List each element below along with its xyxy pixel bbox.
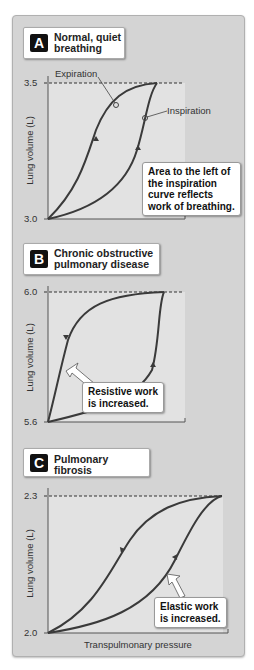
panel-c-title: C Pulmonary fibrosis xyxy=(23,448,150,477)
panel-b-ybottom: 5.6 xyxy=(24,416,37,427)
inspiration-label: Inspiration xyxy=(167,105,211,116)
panel-b-note: Resistive workis increased. xyxy=(82,382,164,413)
panel-c-ylabel: Lung volume (L) xyxy=(24,529,35,598)
panel-b-badge: B xyxy=(30,250,48,268)
panel-a-badge: A xyxy=(30,34,48,52)
panel-a-ybottom: 3.0 xyxy=(24,213,37,224)
panel-c-badge: C xyxy=(30,454,48,472)
expiration-label: Expiration xyxy=(55,68,97,79)
x-axis-label: Transpulmonary pressure xyxy=(84,639,192,650)
panel-a-note: Area to the left ofthe inspirationcurve … xyxy=(142,162,241,216)
panel-c-note: Elastic workis increased. xyxy=(154,597,227,628)
panel-b-ytop: 6.0 xyxy=(24,286,37,297)
panel-b-title: B Chronic obstructivepulmonary disease xyxy=(23,243,160,275)
panel-b-ylabel: Lung volume (L) xyxy=(24,323,35,392)
charts-svg xyxy=(0,0,254,670)
panel-c-ybottom: 2.0 xyxy=(24,627,37,638)
panel-a-title: A Normal, quietbreathing xyxy=(23,27,125,59)
panel-c-ytop: 2.3 xyxy=(24,490,37,501)
panel-a-ytop: 3.5 xyxy=(24,77,37,88)
panel-a-ylabel: Lung volume (L) xyxy=(24,116,35,185)
